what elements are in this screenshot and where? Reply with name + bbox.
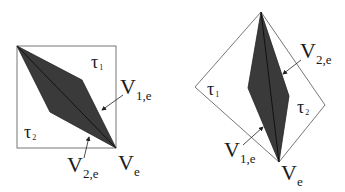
right-tau1-label: τ1	[207, 79, 219, 99]
left-figure: τ1 τ2 V1,e V2,e Ve	[17, 46, 152, 181]
left-tau2-label: τ2	[24, 122, 36, 142]
right-ve-label: Ve	[281, 160, 303, 189]
right-v1e-arrow	[243, 127, 263, 145]
right-v1e-label: V1,e	[224, 137, 256, 166]
right-tau2-label: τ2	[297, 97, 309, 117]
right-v2e-label: V2,e	[300, 38, 332, 67]
left-v2e-label: V2,e	[67, 152, 99, 181]
left-tau1-label: τ1	[91, 52, 103, 72]
left-ve-label: Ve	[118, 150, 140, 179]
diagram-canvas: τ1 τ2 V1,e V2,e Ve τ1 τ2 V2,e V1,e Ve	[0, 0, 345, 192]
left-v1e-label: V1,e	[120, 74, 152, 103]
right-figure: τ1 τ2 V2,e V1,e Ve	[195, 12, 332, 189]
